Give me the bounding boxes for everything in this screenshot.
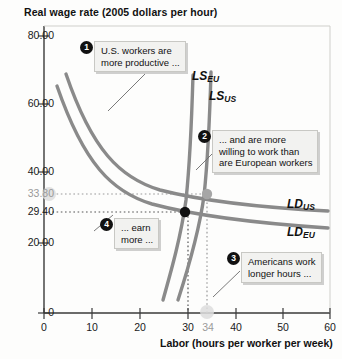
x-tick-34: 34 bbox=[198, 321, 218, 333]
y-tick-80: 80.00 bbox=[6, 29, 54, 41]
x-tick-60: 60 bbox=[320, 321, 340, 333]
curve-label-ld-eu: LDEU bbox=[287, 225, 315, 240]
curve-label-ls-eu: LSEU bbox=[192, 69, 219, 84]
annotation-badge-1: 1 bbox=[80, 41, 93, 54]
annotation-1-line-2: more productive ... bbox=[101, 57, 180, 69]
y-tick-20: 20.00 bbox=[6, 236, 54, 248]
annotation-4-line-1: ... earn bbox=[121, 222, 153, 234]
annotation-badge-3: 3 bbox=[227, 252, 240, 265]
x-tick-10: 10 bbox=[82, 321, 102, 333]
y-tick-33-80: 33.80 bbox=[6, 187, 54, 199]
wage-labor-chart: Real wage rate (2005 dollars per hour) bbox=[0, 0, 342, 359]
x-tick-40: 40 bbox=[226, 321, 246, 333]
curve-label-ld-us: LDUS bbox=[287, 197, 315, 212]
annotation-4-line-2: more ... bbox=[121, 234, 153, 246]
annotation-callout-3: Americans work longer hours ... bbox=[241, 252, 322, 283]
annotation-callout-1: U.S. workers are more productive ... bbox=[94, 41, 186, 72]
curve-label-ls-us: LSUS bbox=[209, 89, 236, 104]
y-tick-29-40: 29.40 bbox=[6, 205, 54, 217]
annotation-callout-4: ... earn more ... bbox=[114, 218, 159, 249]
curve-ls-us bbox=[178, 72, 211, 300]
x-tick-30: 30 bbox=[178, 321, 198, 333]
annotation-2-line-1: ... and are more bbox=[219, 134, 312, 146]
x-axis-blob-us bbox=[200, 305, 214, 319]
x-tick-0: 0 bbox=[34, 321, 54, 333]
y-tick-40: 40.00 bbox=[6, 165, 54, 177]
equilibrium-marker-us bbox=[202, 189, 212, 199]
annotation-1-line-1: U.S. workers are bbox=[101, 45, 180, 57]
annotation-3-line-2: longer hours ... bbox=[248, 268, 316, 280]
equilibrium-marker-eu bbox=[180, 207, 190, 217]
x-tick-20: 20 bbox=[130, 321, 150, 333]
annotation-3-line-1: Americans work bbox=[248, 256, 316, 268]
x-tick-50: 50 bbox=[273, 321, 293, 333]
annotation-callout-2: ... and are more willing to work than ar… bbox=[212, 130, 318, 173]
annotation-2-line-2: willing to work than bbox=[219, 146, 312, 158]
x-axis-title: Labor (hours per worker per week) bbox=[160, 337, 333, 349]
annotation-badge-2: 2 bbox=[198, 130, 211, 143]
annotation-badge-4: 4 bbox=[100, 218, 113, 231]
y-tick-60: 60.00 bbox=[6, 97, 54, 109]
annotation-2-line-3: are European workers bbox=[219, 157, 312, 169]
y-tick-0: 0 bbox=[6, 306, 54, 318]
